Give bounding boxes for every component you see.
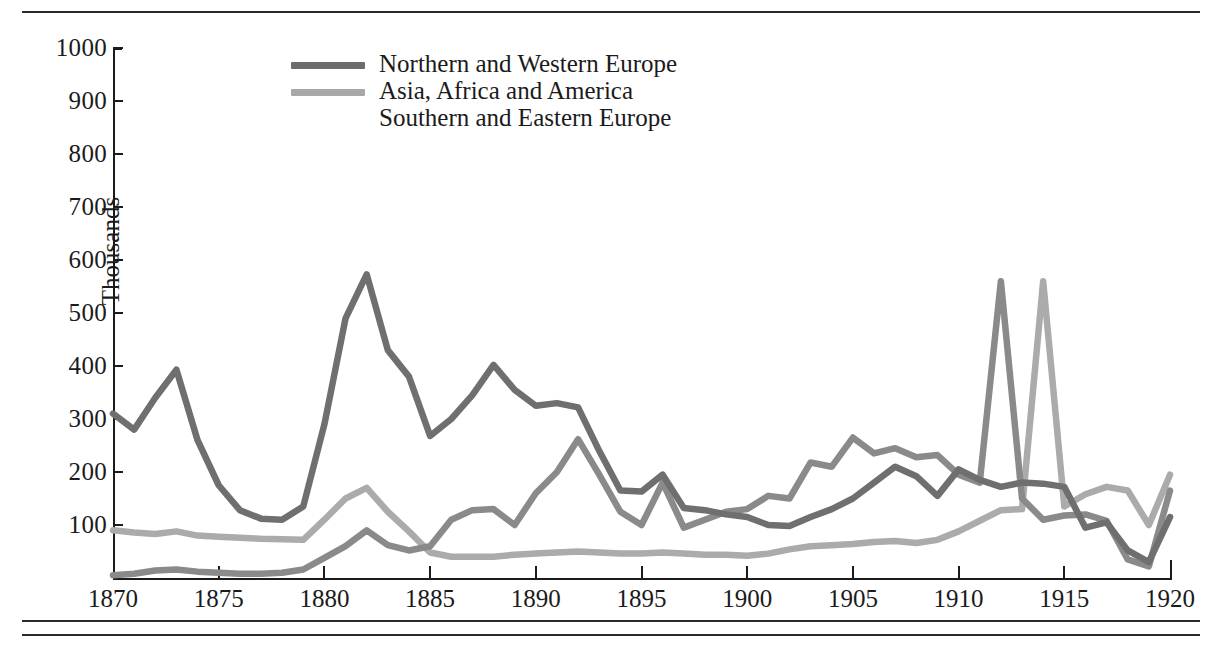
series-line [113,281,1170,575]
x-axis-tick-label: 1885 [390,586,470,612]
x-axis-tick-label: 1905 [813,586,893,612]
x-axis-tick-label: 1890 [496,586,576,612]
legend-swatch [291,62,365,69]
bottom-rule-upper [22,620,1200,622]
top-rule [22,11,1200,13]
y-axis-tick-label: 900 [69,88,107,113]
y-axis-tick-label: 700 [69,194,107,219]
x-axis-tick-label: 1895 [602,586,682,612]
legend-label: Asia, Africa and America [379,77,633,104]
y-axis-tick-label: 400 [69,353,107,378]
y-axis-tick-label: 600 [69,247,107,272]
chart-legend: Northern and Western EuropeAsia, Africa … [291,52,711,133]
y-axis-tick-label: 500 [69,300,107,325]
y-axis-tick-label: 300 [69,406,107,431]
x-axis-line [113,578,1172,580]
y-axis-tick-label: 200 [69,459,107,484]
y-axis-tick-label: 100 [69,512,107,537]
legend-label: Northern and Western Europe [379,50,677,77]
x-axis-tick-label: 1880 [284,586,364,612]
x-axis-tick-label: 1870 [73,586,153,612]
legend-item: Asia, Africa and America [291,79,711,106]
y-axis-tick-label: 800 [69,141,107,166]
legend-item: Southern and Eastern Europe [291,106,711,133]
legend-label: Southern and Eastern Europe [379,104,671,131]
x-axis-tick-label: 1915 [1024,586,1104,612]
legend-item: Northern and Western Europe [291,52,711,79]
x-axis-tick-label: 1900 [707,586,787,612]
chart-figure: Thousands 100200300400500600700800900100… [0,0,1220,653]
x-axis-tick-label: 1920 [1130,586,1210,612]
x-axis-tick-label: 1875 [179,586,259,612]
x-axis-right-cap [1170,560,1172,580]
y-axis-tick-label: 1000 [56,35,107,60]
legend-swatch [291,116,365,123]
legend-swatch [291,89,365,96]
bottom-rule-lower [22,634,1200,636]
x-axis-tick-label: 1910 [919,586,999,612]
